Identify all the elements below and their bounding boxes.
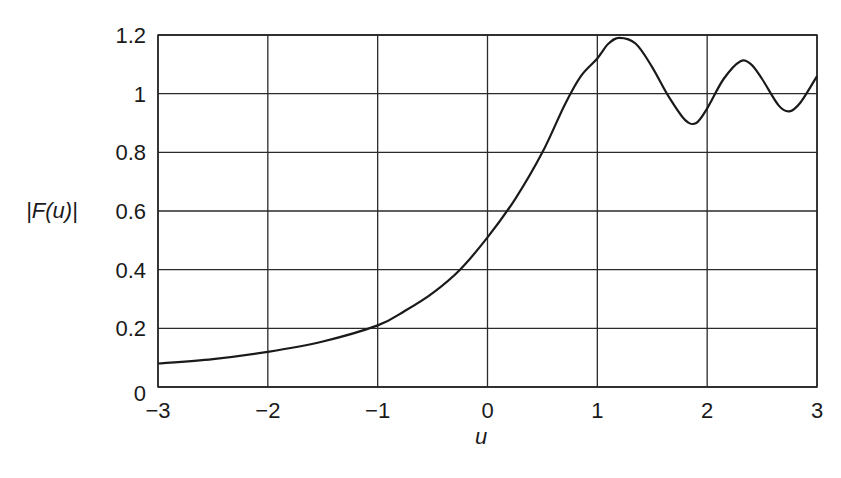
x-tick-label: 1 [591,398,603,423]
x-tick-labels: −3−2−10123 [145,398,823,423]
x-tick-label: −1 [365,398,390,423]
x-axis-label: u [475,424,487,449]
y-tick-label: 0.6 [115,199,146,224]
x-tick-label: 3 [811,398,823,423]
y-axis-label: |F(u)| [26,198,78,223]
x-tick-label: 2 [701,398,713,423]
x-tick-label: −3 [145,398,170,423]
y-tick-labels: 00.20.40.60.811.2 [115,23,146,406]
x-tick-label: 0 [481,398,493,423]
chart: 00.20.40.60.811.2 −3−2−10123 |F(u)| u [0,0,841,478]
y-tick-label: 0 [134,381,146,406]
x-tick-label: −2 [255,398,280,423]
y-tick-label: 1 [134,82,146,107]
y-tick-label: 1.2 [115,23,146,48]
y-tick-label: 0.8 [115,140,146,165]
y-tick-label: 0.2 [115,316,146,341]
y-tick-label: 0.4 [115,258,146,283]
